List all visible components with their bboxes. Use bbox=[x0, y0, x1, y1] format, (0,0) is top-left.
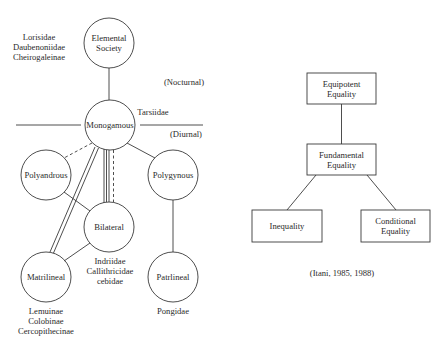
label-conditional-equality: Conditional Equality bbox=[375, 216, 416, 236]
edge-fundamental-conditional bbox=[367, 175, 396, 210]
diurnal-label: (Diurnal) bbox=[170, 129, 202, 139]
edge-monogamous-polygynous bbox=[127, 143, 155, 158]
edge-monogamous-polyandrous bbox=[64, 143, 92, 158]
label-elemental-society: Elemental Society bbox=[92, 33, 127, 53]
label-monogamous: Monogamous bbox=[86, 120, 133, 130]
label-fundamental-equality: Fundamental Equality bbox=[319, 150, 364, 170]
edge-fundamental-inequality bbox=[287, 175, 316, 210]
bilateral-taxa: Indriidae Callithricidae cebidae bbox=[87, 256, 134, 286]
nocturnal-label: (Nocturnal) bbox=[164, 77, 204, 87]
matrilineal-taxa: Lemuinae Colobinae Cercopithecinae bbox=[18, 306, 74, 336]
tarsiidae-label: Tarsiidae bbox=[137, 107, 168, 117]
edge-monogamous-matrilineal-1 bbox=[50, 147, 95, 252]
label-polyandrous: Polyandrous bbox=[25, 170, 68, 180]
label-patrilineal: Patrlineal bbox=[157, 272, 190, 282]
edge-polyandrous-bilateral bbox=[64, 192, 90, 211]
label-equipotent-equality: Equipotent Equality bbox=[323, 79, 361, 99]
label-inequality: Inequality bbox=[270, 221, 305, 231]
label-matrilineal: Matrilineal bbox=[27, 272, 65, 282]
label-polygynous: Polygynous bbox=[153, 170, 194, 180]
patrilineal-taxa: Pongidae bbox=[157, 306, 189, 316]
citation: (Itani, 1985, 1988) bbox=[310, 268, 374, 278]
elemental-taxa: Lorisidae Daubenoniidae Cheirogaleinae bbox=[13, 32, 65, 62]
label-bilateral: Bilateral bbox=[94, 222, 124, 232]
